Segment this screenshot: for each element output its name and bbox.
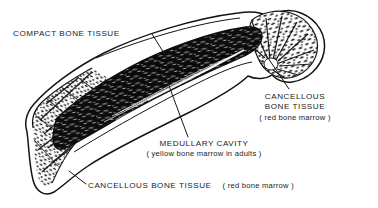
- label-cancellous-right-line3: ( red bone marrow ): [259, 113, 330, 123]
- label-compact-bone-tissue-line1: COMPACT BONE TISSUE: [13, 29, 120, 39]
- label-cancellous-bone-tissue-right: CANCELLOUS BONE TISSUE ( red bone marrow…: [259, 92, 330, 123]
- label-cancellous-right-line2: BONE TISSUE: [259, 102, 330, 112]
- label-cancellous-bottom-line2: ( red bone marrow ): [223, 181, 294, 190]
- label-cancellous-right-line1: CANCELLOUS: [259, 92, 330, 102]
- label-cancellous-bone-tissue-bottom: CANCELLOUS BONE TISSUE( red bone marrow …: [88, 181, 294, 191]
- label-cancellous-bottom-line1: CANCELLOUS BONE TISSUE: [88, 181, 212, 190]
- label-medullary-line2: ( yellow bone marrow in adults ): [146, 149, 261, 159]
- label-medullary-cavity: MEDULLARY CAVITY ( yellow bone marrow in…: [146, 139, 261, 160]
- bone-diagram-figure: COMPACT BONE TISSUE CANCELLOUS BONE TISS…: [0, 0, 378, 208]
- label-compact-bone-tissue: COMPACT BONE TISSUE: [13, 29, 120, 39]
- label-medullary-line1: MEDULLARY CAVITY: [146, 139, 261, 149]
